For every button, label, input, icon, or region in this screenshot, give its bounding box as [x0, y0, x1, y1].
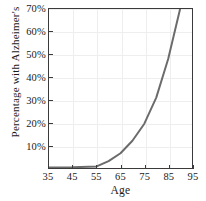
y-tick-mark — [49, 100, 53, 101]
x-tick-mark — [145, 165, 146, 169]
y-tick-mark — [49, 146, 53, 147]
x-tick-mark — [96, 165, 97, 169]
y-tick-mark — [49, 31, 53, 32]
x-tick-mark — [169, 165, 170, 169]
y-tick-mark — [49, 54, 53, 55]
x-tick-mark — [121, 165, 122, 169]
alzheimers-prevalence-chart: 35455565758595 10%20%30%40%50%60%70% Age… — [0, 0, 206, 201]
y-axis-title: Percentage with Alzheimer's — [9, 0, 21, 152]
alzheimers-curve — [49, 9, 192, 168]
y-tick-mark — [49, 77, 53, 78]
plot-area — [48, 8, 193, 169]
x-tick-mark — [193, 165, 194, 169]
x-tick-mark — [48, 165, 49, 169]
x-axis-title: Age — [48, 184, 193, 196]
y-tick-mark — [49, 8, 53, 9]
x-tick-mark — [72, 165, 73, 169]
y-tick-mark — [49, 123, 53, 124]
x-tick-label: 95 — [176, 171, 206, 183]
